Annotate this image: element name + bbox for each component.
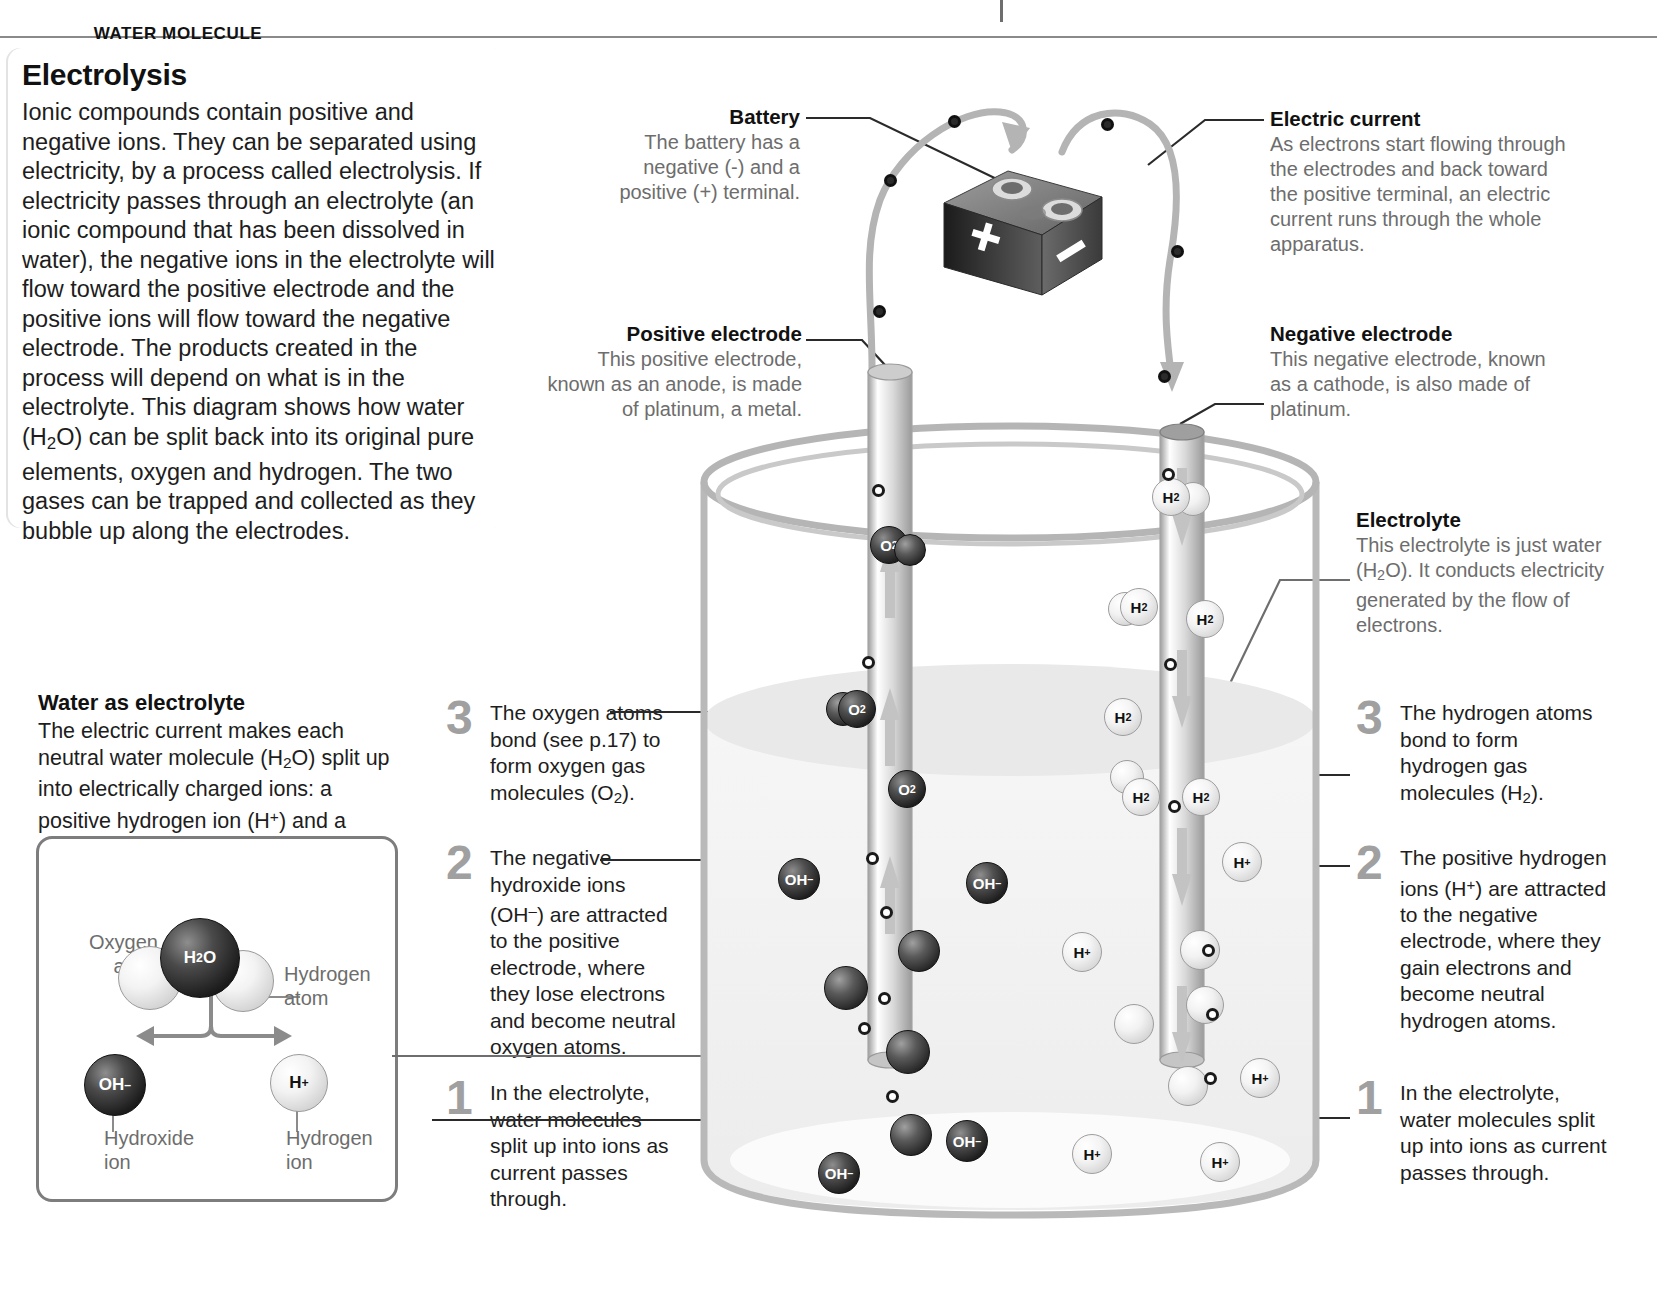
step-right-2-text: The positive hydrogen ions (H+) are attr… [1400,845,1608,1034]
electron-icon [1171,245,1184,258]
negative-electrode-annotation-body: This negative electrode, known as a cath… [1270,347,1560,422]
electron-icon [873,305,886,318]
hydrogen-ion-sphere: H+ [270,1054,328,1112]
negative-electrode-annotation-heading: Negative electrode [1270,322,1560,346]
step-right-3-text: The hydrogen atoms bond to form hydrogen… [1400,700,1601,811]
electron-icon [878,992,891,1005]
hydrogen-gas-molecule: H2 [1186,600,1224,638]
electron-icon [1164,658,1177,671]
oxygen-gas-molecule: O2 [838,690,876,728]
step-left-1: 1 In the electrolyte, water molecules sp… [446,1080,678,1213]
electron-icon [1168,800,1181,813]
step-right-2-number: 2 [1356,839,1383,887]
hydrogen-ion-bubble: H+ [1062,932,1102,972]
electric-current-annotation-body: As electrons start flowing through the e… [1270,132,1580,257]
page-top-tick-mark [1000,0,1003,22]
hydrogen-gas-molecule: H2 [1104,698,1142,736]
positive-electrode-annotation-body: This positive electrode, known as an ano… [540,347,802,422]
hydroxide-ion-bubble: OH– [946,1120,988,1162]
hydrogen-ion-bubble: H+ [1240,1058,1280,1098]
oxygen-atom-sphere: H2O [160,918,240,998]
hydrogen-ion-bubble: H+ [1072,1134,1112,1174]
step-right-3: 3 The hydrogen atoms bond to form hydrog… [1356,700,1601,811]
hydrogen-gas-molecule: H2 [1182,778,1220,816]
electric-current-annotation-heading: Electric current [1270,107,1580,131]
battery-annotation-body: The battery has a negative (-) and a pos… [600,130,800,205]
hydrogen-gas-molecule: H2 [1120,588,1158,626]
electron-icon [886,1090,899,1103]
electrodes-graphic [830,350,1250,1150]
hydrogen-atom-label: Hydrogen atom [284,962,394,1010]
hydroxide-ion-bubble: OH– [966,862,1008,904]
step-left-3: 3 The oxygen atoms bond (see p.17) to fo… [446,700,676,811]
electron-icon [880,906,893,919]
step-right-3-number: 3 [1356,694,1383,742]
water-molecule-box-title: WATER MOLECULE [0,24,356,44]
step-left-3-text: The oxygen atoms bond (see p.17) to form… [490,700,676,811]
hydrogen-atom-bubble [1186,986,1224,1024]
page-title: Electrolysis [22,58,502,92]
positive-electrode-annotation: Positive electrode This positive electro… [540,322,802,422]
negative-electrode-annotation: Negative electrode This negative electro… [1270,322,1560,422]
electron-icon [1202,944,1215,957]
electrolyte-annotation-body: This electrolyte is just water (H2O). It… [1356,533,1636,638]
step-right-1-number: 1 [1356,1074,1383,1122]
hydrogen-gas-molecule: H2 [1122,778,1160,816]
electron-icon [884,174,897,187]
electron-icon [866,852,879,865]
intro-panel: Electrolysis Ionic compounds contain pos… [22,58,502,546]
step-left-3-number: 3 [446,694,473,742]
electron-icon [1204,1072,1217,1085]
oxygen-atom-bubble [824,966,868,1010]
oxygen-atom-bubble [894,534,926,566]
oxygen-atom-bubble [898,930,940,972]
water-as-electrolyte-heading: Water as electrolyte [38,690,398,716]
positive-electrode-annotation-heading: Positive electrode [540,322,802,346]
hydrogen-ion-label: Hydrogen ion [286,1126,386,1174]
battery-annotation: Battery The battery has a negative (-) a… [600,105,800,205]
step-left-1-text: In the electrolyte, water molecules spli… [490,1080,678,1213]
intro-paragraph: Ionic compounds contain positive and neg… [22,98,502,546]
electron-icon [1162,468,1175,481]
step-left-2: 2 The negative hydroxide ions (OH–) are … [446,845,678,1061]
hydroxide-ion-sphere: OH– [84,1054,146,1116]
step-right-2: 2 The positive hydrogen ions (H+) are at… [1356,845,1608,1034]
electron-icon [862,656,875,669]
step-left-2-text: The negative hydroxide ions (OH–) are at… [490,845,678,1061]
hydroxide-ion-bubble: OH– [818,1152,860,1194]
hydrogen-ion-bubble: H+ [1200,1142,1240,1182]
electron-icon [1206,1008,1219,1021]
oxygen-atom-bubble [886,1030,930,1074]
battery-graphic [930,155,1110,305]
electrolyte-annotation: Electrolyte This electrolyte is just wat… [1356,508,1636,638]
hydroxide-ion-label: Hydroxide ion [104,1126,214,1174]
electron-icon [948,115,961,128]
hydroxide-ion-bubble: OH– [778,858,820,900]
electron-icon [858,1022,871,1035]
hydrogen-atom-bubble [1168,1066,1208,1106]
electric-current-annotation: Electric current As electrons start flow… [1270,107,1580,257]
hydrogen-gas-molecule: H2 [1152,478,1190,516]
electron-icon [1101,118,1114,131]
step-right-1-text: In the electrolyte, water molecules spli… [1400,1080,1608,1186]
step-right-1: 1 In the electrolyte, water molecules sp… [1356,1080,1608,1186]
hydrogen-ion-bubble: H+ [1222,842,1262,882]
hydrogen-atom-bubble [1114,1004,1154,1044]
oxygen-atom-bubble [890,1114,932,1156]
battery-annotation-heading: Battery [600,105,800,129]
electron-icon [872,484,885,497]
step-left-2-number: 2 [446,839,473,887]
step-left-1-number: 1 [446,1074,473,1122]
oxygen-gas-molecule: O2 [888,770,926,808]
electrolyte-annotation-heading: Electrolyte [1356,508,1636,532]
